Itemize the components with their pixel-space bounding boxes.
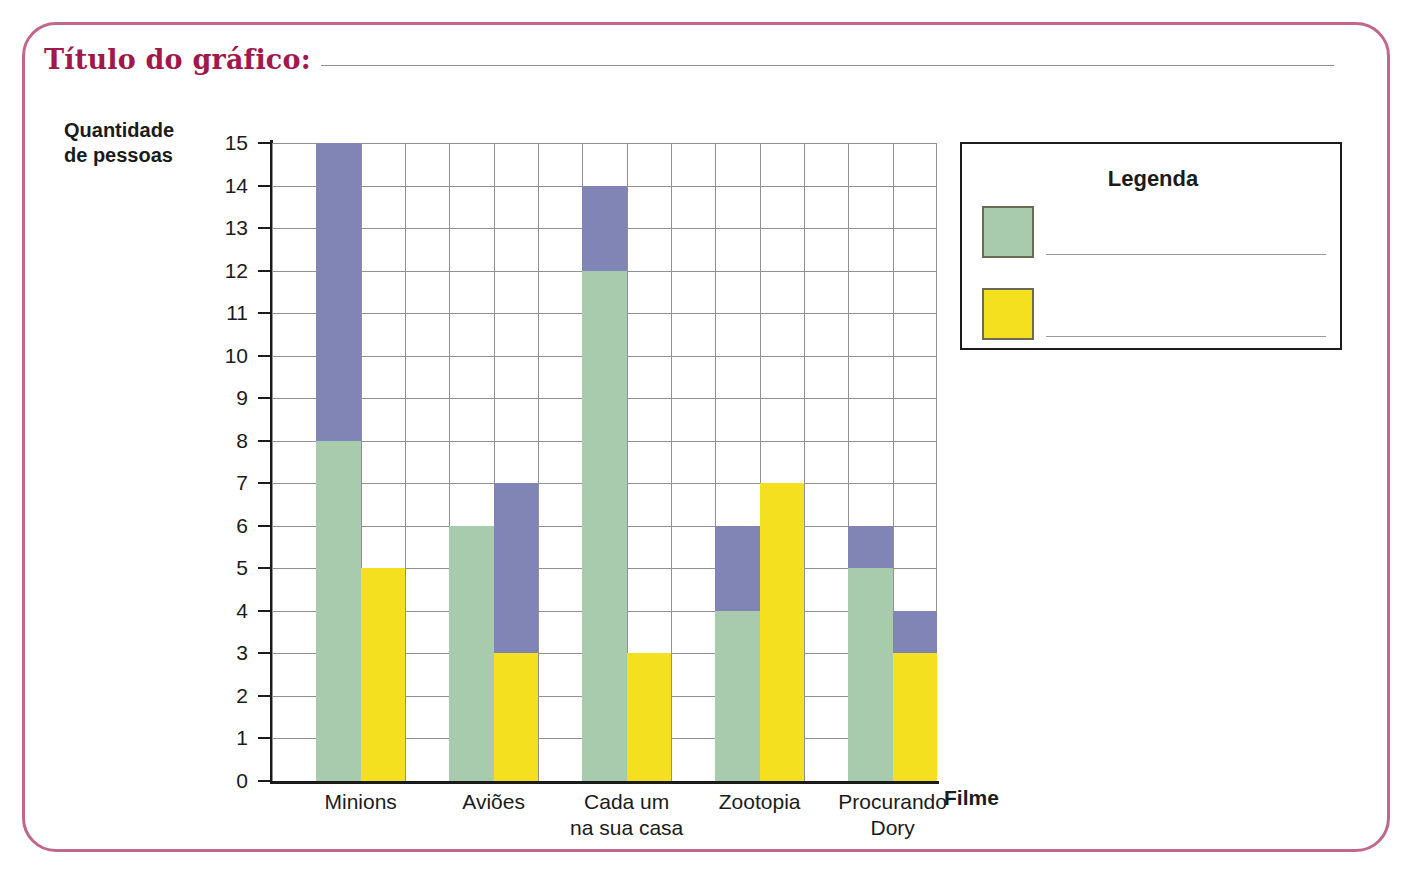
y-axis-tick xyxy=(258,355,272,357)
bar-segment-purple xyxy=(848,526,892,569)
y-axis-tick xyxy=(258,312,272,314)
legend-title: Legenda xyxy=(962,166,1344,192)
bar-segment-green xyxy=(582,271,626,781)
y-axis-caption-line: Quantidade xyxy=(64,118,214,143)
bar-segment-yellow xyxy=(627,653,671,781)
y-axis-tick xyxy=(258,227,272,229)
bar-segment-green xyxy=(316,441,360,781)
plot-area xyxy=(272,143,937,781)
bar-segment-yellow xyxy=(494,653,538,781)
x-axis-caption: Filme xyxy=(944,786,999,810)
legend-box: Legenda xyxy=(960,142,1342,350)
y-axis-tick-label: 2 xyxy=(206,685,248,706)
x-axis-line xyxy=(270,781,939,784)
y-axis-tick-label: 11 xyxy=(206,302,248,323)
y-axis-tick xyxy=(258,525,272,527)
y-axis-tick xyxy=(258,567,272,569)
bar-segment-purple xyxy=(715,526,759,611)
chart-title-blank-line[interactable] xyxy=(321,64,1334,66)
y-axis-tick-label: 5 xyxy=(206,557,248,578)
y-axis-tick xyxy=(258,780,272,782)
x-axis-category-label-line: Dory xyxy=(783,815,1003,841)
y-axis-tick xyxy=(258,142,272,144)
chart-title-label: Título do gráfico: xyxy=(44,44,311,75)
y-axis-tick-label: 7 xyxy=(206,472,248,493)
y-axis-tick xyxy=(258,695,272,697)
y-axis-tick xyxy=(258,185,272,187)
x-axis-category-label-line: na sua casa xyxy=(517,815,737,841)
bar-segment-green xyxy=(449,526,493,781)
legend-blank-line-yellow[interactable] xyxy=(1046,335,1326,337)
y-axis-tick-label: 15 xyxy=(206,132,248,153)
y-axis-tick xyxy=(258,440,272,442)
y-axis-tick xyxy=(258,397,272,399)
y-axis-caption: Quantidadede pessoas xyxy=(64,118,214,168)
y-axis-tick-label: 3 xyxy=(206,642,248,663)
y-axis-caption-line: de pessoas xyxy=(64,143,214,168)
y-axis-tick-label: 14 xyxy=(206,175,248,196)
legend-swatch-yellow xyxy=(982,288,1034,340)
bar-segment-green xyxy=(848,568,892,781)
legend-item-yellow xyxy=(982,286,1326,340)
y-axis-tick-label: 4 xyxy=(206,600,248,621)
y-axis-tick xyxy=(258,652,272,654)
bar-segment-yellow xyxy=(893,653,937,781)
bar-segment-purple xyxy=(893,611,937,654)
y-axis-tick-label: 10 xyxy=(206,345,248,366)
bar-segment-green xyxy=(715,611,759,781)
y-axis-tick-label: 13 xyxy=(206,217,248,238)
y-axis-tick-label: 8 xyxy=(206,430,248,451)
y-axis-tick xyxy=(258,270,272,272)
bar-segment-purple xyxy=(582,186,626,271)
y-axis-tick-label: 12 xyxy=(206,260,248,281)
bar-segment-purple xyxy=(316,143,360,441)
bar-segment-purple xyxy=(494,483,538,653)
legend-blank-line-green[interactable] xyxy=(1046,253,1326,255)
y-axis-tick-label: 0 xyxy=(206,770,248,791)
y-axis-tick-label: 6 xyxy=(206,515,248,536)
y-axis-tick xyxy=(258,610,272,612)
y-axis-tick xyxy=(258,482,272,484)
chart-title-row: Título do gráfico: xyxy=(44,44,1334,84)
legend-swatch-green xyxy=(982,206,1034,258)
y-axis-tick-label: 1 xyxy=(206,727,248,748)
bar-segment-yellow xyxy=(361,568,405,781)
y-axis-tick-label: 9 xyxy=(206,387,248,408)
legend-item-green xyxy=(982,204,1326,258)
bar-segment-yellow xyxy=(760,483,804,781)
y-axis-tick xyxy=(258,737,272,739)
